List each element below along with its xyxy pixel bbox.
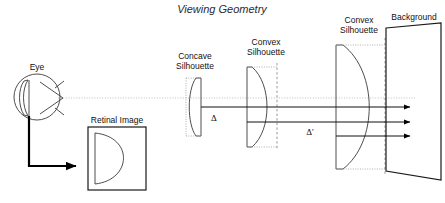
delta-label: Δ <box>211 113 217 123</box>
lens-back-arc <box>24 80 29 116</box>
convex-near-label-line2: Silhouette <box>247 47 285 57</box>
background-label: Background <box>391 12 437 22</box>
retinal-projection-arrow <box>29 116 76 166</box>
convex-far-label-line2: Silhouette <box>340 25 378 35</box>
viewing-geometry-figure: Viewing Geometry Eye Retinal Image <box>0 0 445 203</box>
concave-silhouette-label-line2: Silhouette <box>176 61 214 71</box>
retinal-image-box <box>88 127 146 190</box>
cone-lower-extension <box>55 108 64 115</box>
convex-silhouette-far-group: Convex Silhouette <box>336 15 385 175</box>
concave-silhouette-label-line1: Concave <box>178 51 212 61</box>
eye-group: Eye <box>14 62 64 120</box>
background-plane-group: Background <box>386 12 441 180</box>
retinal-image-group: Retinal Image <box>88 115 146 190</box>
convex-near-label-line1: Convex <box>252 37 282 47</box>
convex-far-label-line1: Convex <box>345 15 375 25</box>
page-title: Viewing Geometry <box>177 3 268 15</box>
diagram-canvas: Viewing Geometry Eye Retinal Image <box>0 0 445 203</box>
eye-label: Eye <box>30 62 45 72</box>
concave-silhouette-group: Concave Silhouette <box>176 51 214 136</box>
retinal-image-dshape <box>95 133 124 184</box>
delta-prime-label: Δ' <box>306 127 314 137</box>
retinal-image-label: Retinal Image <box>91 115 144 125</box>
background-plane <box>386 23 441 180</box>
eyeball-circle <box>14 74 60 120</box>
concave-silhouette-shape <box>189 78 201 136</box>
convex-silhouette-near-group: Convex Silhouette <box>247 37 285 150</box>
